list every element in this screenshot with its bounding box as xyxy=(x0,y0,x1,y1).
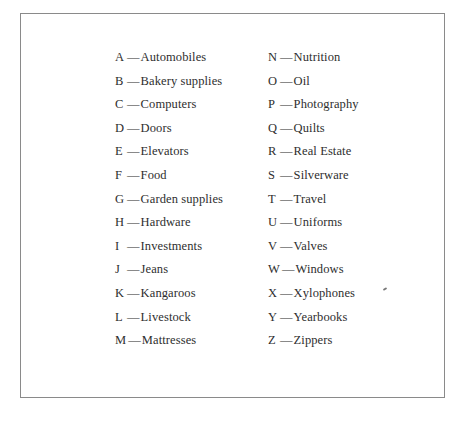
list-item: H—Hardware xyxy=(115,211,223,235)
entry-dash: — xyxy=(280,93,293,117)
entry-term: Xylophones xyxy=(294,286,355,300)
entry-letter: G xyxy=(115,188,125,212)
list-item: K—Kangaroos xyxy=(115,282,223,306)
entry-letter: A xyxy=(115,46,125,70)
entry-letter: Z xyxy=(268,329,278,353)
list-item: T—Travel xyxy=(268,188,359,212)
list-item: S—Silverware xyxy=(268,164,359,188)
entry-term: Computers xyxy=(141,97,197,111)
entry-letter: X xyxy=(268,282,278,306)
list-item: M—Mattresses xyxy=(115,329,223,353)
entry-letter: C xyxy=(115,93,125,117)
entry-dash: — xyxy=(282,258,295,282)
list-item: R—Real Estate xyxy=(268,140,359,164)
list-item: W—Windows xyxy=(268,258,359,282)
entry-term: Garden supplies xyxy=(141,192,223,206)
entry-dash: — xyxy=(280,329,293,353)
list-item: X—Xylophones xyxy=(268,282,359,306)
list-item: F—Food xyxy=(115,164,223,188)
entry-dash: — xyxy=(280,140,293,164)
entry-term: Oil xyxy=(294,74,310,88)
entry-term: Elevators xyxy=(141,144,189,158)
entry-dash: — xyxy=(280,70,293,94)
list-item: Z—Zippers xyxy=(268,329,359,353)
entry-term: Travel xyxy=(294,192,327,206)
entry-letter: H xyxy=(115,211,125,235)
entry-dash: — xyxy=(127,211,140,235)
entry-letter: N xyxy=(268,46,278,70)
entry-term: Mattresses xyxy=(142,333,196,347)
entry-letter: Q xyxy=(268,117,278,141)
list-item: P—Photography xyxy=(268,93,359,117)
entry-dash: — xyxy=(280,117,293,141)
entry-dash: — xyxy=(127,46,140,70)
entry-term: Yearbooks xyxy=(294,310,348,324)
list-item: E—Elevators xyxy=(115,140,223,164)
entry-term: Photography xyxy=(294,97,359,111)
entry-term: Windows xyxy=(296,262,344,276)
entry-term: Food xyxy=(141,168,167,182)
document-frame xyxy=(20,13,445,398)
entry-letter: M xyxy=(115,329,126,353)
entry-dash: — xyxy=(127,188,140,212)
list-item: L—Livestock xyxy=(115,306,223,330)
list-item: V—Valves xyxy=(268,235,359,259)
entry-letter: F xyxy=(115,164,125,188)
entry-term: Zippers xyxy=(294,333,333,347)
entry-dash: — xyxy=(280,46,293,70)
entry-letter: Y xyxy=(268,306,278,330)
entry-term: Jeans xyxy=(141,262,169,276)
entry-letter: S xyxy=(268,164,278,188)
list-item: C—Computers xyxy=(115,93,223,117)
entry-term: Livestock xyxy=(141,310,191,324)
entry-term: Nutrition xyxy=(294,50,341,64)
entry-term: Kangaroos xyxy=(141,286,196,300)
entry-dash: — xyxy=(127,282,140,306)
entry-dash: — xyxy=(127,235,140,259)
entry-dash: — xyxy=(127,140,140,164)
entry-term: Doors xyxy=(141,121,172,135)
list-item: N—Nutrition xyxy=(268,46,359,70)
entry-term: Quilts xyxy=(294,121,325,135)
entry-dash: — xyxy=(127,258,140,282)
entry-dash: — xyxy=(127,164,140,188)
entry-term: Bakery supplies xyxy=(141,74,223,88)
list-item: I—Investments xyxy=(115,235,223,259)
entry-letter: V xyxy=(268,235,278,259)
entry-dash: — xyxy=(280,306,293,330)
entry-letter: K xyxy=(115,282,125,306)
entry-letter: B xyxy=(115,70,125,94)
list-item: O—Oil xyxy=(268,70,359,94)
left-column-list: A—Automobiles B—Bakery supplies C—Comput… xyxy=(115,46,223,353)
entry-letter: U xyxy=(268,211,278,235)
list-item: G—Garden supplies xyxy=(115,188,223,212)
entry-dash: — xyxy=(280,211,293,235)
list-item: Q—Quilts xyxy=(268,117,359,141)
entry-letter: L xyxy=(115,306,125,330)
list-item: D—Doors xyxy=(115,117,223,141)
entry-letter: I xyxy=(115,235,125,259)
entry-dash: — xyxy=(127,306,140,330)
entry-letter: O xyxy=(268,70,278,94)
entry-dash: — xyxy=(127,70,140,94)
entry-dash: — xyxy=(127,117,140,141)
list-item: U—Uniforms xyxy=(268,211,359,235)
entry-term: Real Estate xyxy=(294,144,352,158)
list-item: Y—Yearbooks xyxy=(268,306,359,330)
entry-letter: P xyxy=(268,93,278,117)
entry-term: Investments xyxy=(141,239,203,253)
list-item: A—Automobiles xyxy=(115,46,223,70)
right-column-list: N—Nutrition O—Oil P—Photography Q—Quilts… xyxy=(268,46,359,353)
entry-dash: — xyxy=(128,329,141,353)
entry-letter: J xyxy=(115,258,125,282)
entry-dash: — xyxy=(280,188,293,212)
list-item: B—Bakery supplies xyxy=(115,70,223,94)
entry-dash: — xyxy=(280,235,293,259)
entry-term: Silverware xyxy=(294,168,349,182)
entry-dash: — xyxy=(127,93,140,117)
entry-term: Hardware xyxy=(141,215,191,229)
entry-letter: D xyxy=(115,117,125,141)
entry-letter: R xyxy=(268,140,278,164)
entry-dash: — xyxy=(280,164,293,188)
entry-letter: T xyxy=(268,188,278,212)
